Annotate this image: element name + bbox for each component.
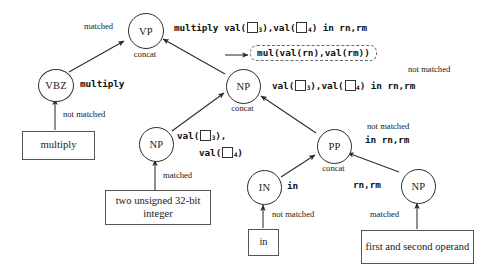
code-np-left-slot-b [222, 147, 233, 158]
code-vp-slot-b [296, 22, 307, 33]
code-np-mid-slot-b [345, 80, 356, 91]
edge-label-pp-not-matched: not matched [367, 121, 409, 131]
leaf-box-first-second[interactable]: first and second operand [361, 230, 474, 264]
leaf-box-two-unsigned-label: two unsigned 32-bit integer [109, 195, 207, 220]
code-np-left-sub-a: 3 [212, 129, 216, 146]
node-in[interactable]: IN [247, 170, 282, 205]
code-vbz-value-text: multiply [80, 78, 124, 89]
code-np-left-sub-b: 4 [234, 146, 238, 163]
edge-vbz-to-vp [69, 41, 124, 72]
code-np-left-line1: val(3), [177, 127, 243, 144]
edge-label-two-unsigned-to-np: matched [163, 170, 192, 180]
node-in-label: IN [259, 182, 270, 193]
node-np-right[interactable]: NP [401, 169, 436, 204]
code-np-mid-mid: ),val( [310, 80, 343, 91]
edge-label-vbz-to-vp: matched [84, 21, 113, 31]
edge-npleft-to-npmid [172, 93, 224, 131]
code-np-mid-head: val( [272, 80, 294, 91]
node-np-left[interactable]: NP [139, 127, 174, 162]
code-np-left-slot-a [200, 130, 211, 141]
code-np-left-head1: val( [177, 127, 199, 144]
node-vp-label: VP [139, 26, 153, 37]
code-vp-slot-a [247, 22, 258, 33]
node-np-mid-sublabel: concat [226, 103, 259, 113]
leaf-box-two-unsigned[interactable]: two unsigned 32-bit integer [105, 190, 211, 225]
code-in-value: in [287, 180, 298, 191]
code-vp-sub-a: 3 [259, 26, 263, 33]
code-vp-line: multiply val(3),val(4) in rn,rm [174, 22, 367, 33]
diagram-canvas: VP concat VBZ NP concat NP PP concat IN … [0, 0, 491, 275]
node-pp-label: PP [328, 141, 340, 152]
code-np-mid-slot-a [295, 80, 306, 91]
node-np-left-label: NP [150, 139, 164, 150]
code-vp-sub-b: 4 [308, 26, 312, 33]
code-vbz-value: multiply [80, 78, 124, 89]
leaf-box-in-label: in [259, 236, 267, 248]
code-pp-value: in rn,rm [365, 134, 409, 145]
node-np-mid[interactable]: NP [226, 69, 261, 104]
leaf-box-first-second-label: first and second operand [366, 241, 470, 253]
code-vp-line-mid: ),val( [262, 22, 295, 33]
generated-code-text: mul(val(rn),val(rm)) [257, 47, 370, 58]
code-vp-line-tail: ) in rn,rm [312, 22, 367, 33]
edge-pp-to-npmid [261, 96, 316, 133]
node-vbz-label: VBZ [45, 80, 67, 91]
code-np-left-line: val(3), val(4) [177, 127, 243, 161]
edge-label-in-to-IN: not matched [272, 209, 314, 219]
code-np-mid-line: val(3),val(4) in rn,rm [272, 80, 415, 91]
code-vp-line-head: multiply val( [174, 22, 246, 33]
code-np-right-value: rn,rm [353, 179, 381, 190]
edge-label-multiply-to-vbz: not matched [63, 109, 105, 119]
code-np-mid-sub-b: 4 [356, 84, 360, 91]
code-np-left-tail2: ) [237, 144, 243, 161]
leaf-box-multiply-label: multiply [41, 139, 77, 151]
node-np-right-label: NP [412, 181, 426, 192]
code-np-left-head2: val( [199, 144, 221, 161]
code-np-right-value-text: rn,rm [353, 179, 381, 190]
edge-label-first-second-to-np: matched [370, 209, 399, 219]
code-np-left-line2: val(4) [177, 144, 243, 161]
edge-label-np-mid-not-matched: not matched [408, 64, 450, 74]
node-vbz[interactable]: VBZ [38, 69, 74, 102]
edge-in-to-pp [281, 155, 315, 177]
node-pp-sublabel: concat [317, 163, 350, 173]
code-np-left-tail1: ), [215, 127, 226, 144]
node-pp[interactable]: PP [317, 129, 352, 164]
node-np-mid-label: NP [237, 81, 251, 92]
code-pp-value-text: in rn,rm [365, 134, 409, 145]
leaf-box-multiply[interactable]: multiply [22, 131, 95, 160]
code-np-mid-sub-a: 3 [307, 84, 311, 91]
node-vp[interactable]: VP [128, 13, 164, 49]
code-in-value-text: in [287, 180, 298, 191]
leaf-box-in[interactable]: in [248, 229, 279, 256]
edge-npmid-to-vp [163, 39, 225, 74]
code-np-mid-tail: ) in rn,rm [360, 80, 415, 91]
generated-code-box[interactable]: mul(val(rn),val(rm)) [250, 45, 377, 61]
edge-npright-to-pp [348, 153, 399, 172]
node-vp-sublabel: concat [128, 49, 162, 59]
